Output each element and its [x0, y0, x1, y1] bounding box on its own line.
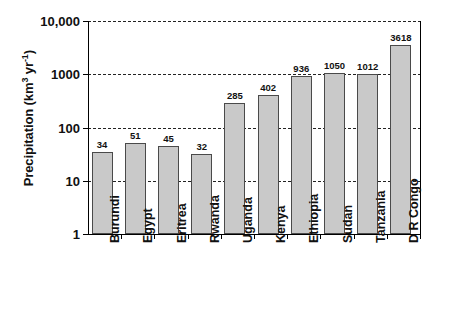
bar-value-label: 45: [163, 133, 174, 144]
x-axis-category-label: Burundi: [108, 195, 122, 243]
gridline: [88, 21, 421, 22]
bar-value-label: 32: [196, 141, 207, 152]
bar-value-label: 1050: [324, 60, 345, 71]
x-axis-category-label: Egypt: [141, 208, 155, 243]
bar-value-label: 51: [130, 130, 141, 141]
bar-value-label: 3618: [390, 32, 411, 43]
bar-value-label: 936: [293, 63, 309, 74]
x-axis-category-label: Uganda: [241, 197, 255, 243]
bar-value-label: 285: [227, 90, 243, 101]
y-axis-tick-label: 1000: [22, 67, 80, 82]
x-axis-category-label: Eritrea: [175, 203, 189, 243]
bar-chart-figure: Precipitation (km3 yr-1) 10,000100010010…: [0, 0, 450, 318]
x-axis-category-label: D R Congo: [407, 178, 421, 243]
y-axis-tick-labels: 10,0001000100101: [18, 0, 80, 318]
y-axis-tick-label: 100: [22, 120, 80, 135]
y-axis-tick-label: 10: [22, 173, 80, 188]
x-axis-category-label: Ethiopia: [307, 194, 321, 243]
bar-value-label: 34: [97, 139, 108, 150]
x-axis-category-label: Rwanda: [208, 195, 222, 243]
y-axis-tick-label: 10,000: [22, 14, 80, 29]
x-axis-category-label: Kenya: [274, 205, 288, 243]
x-axis-category-label: Tanzania: [374, 190, 388, 243]
x-axis-category-label: Sudan: [341, 205, 355, 243]
bar-value-label: 402: [260, 82, 276, 93]
y-axis-line: [88, 21, 89, 235]
y-axis-tick-label: 1: [22, 227, 80, 242]
bar-value-label: 1012: [357, 61, 378, 72]
